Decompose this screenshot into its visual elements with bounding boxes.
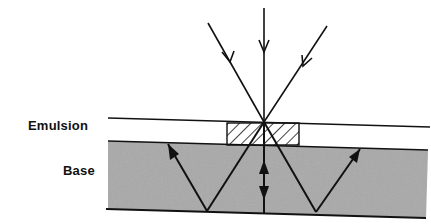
incident-ray-right	[264, 26, 327, 122]
incident-rays	[208, 8, 327, 122]
emulsion-label: Emulsion	[28, 118, 88, 133]
incident-ray-left	[208, 23, 264, 122]
base-layer	[106, 141, 428, 218]
arrow-icon	[222, 51, 234, 62]
base-label: Base	[63, 163, 95, 178]
diagram-canvas	[0, 0, 431, 224]
